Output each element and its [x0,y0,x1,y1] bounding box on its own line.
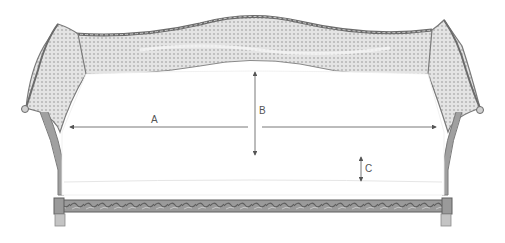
right-corner-block [442,198,452,214]
left-foot [55,214,65,226]
dimension-b-label: B [259,105,266,116]
front-rail [54,198,452,226]
back-panel [75,16,432,75]
left-arm-scroll [22,106,29,113]
right-arm-scroll [477,107,484,114]
seat-cushion [62,71,444,195]
dimension-c-label: C [365,163,372,174]
right-foot [441,214,451,226]
daybed-diagram: A B C [0,0,505,243]
left-corner-block [54,198,64,214]
dimension-a-label: A [151,114,158,125]
